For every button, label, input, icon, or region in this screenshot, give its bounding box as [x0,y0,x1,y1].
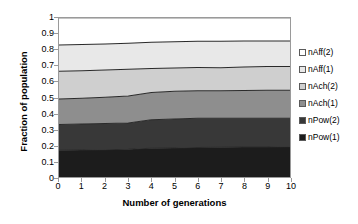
legend-swatch-icon [299,66,306,73]
x-tick-label: 9 [265,181,270,191]
x-tick-label: 1 [79,181,84,191]
y-tick-label: 0.4 [41,109,54,119]
x-tick-label: 6 [195,181,200,191]
legend-item[interactable]: nAff(2) [299,44,357,61]
legend-label: nAff(2) [308,48,333,57]
plot-area [58,17,291,178]
legend-label: nPow(1) [308,133,340,142]
x-axis-tick-labels: 012345678910 [58,181,291,195]
x-tick-label: 3 [125,181,130,191]
legend-swatch-icon [299,117,306,124]
legend-label: nPow(2) [308,116,340,125]
legend-label: nAff(1) [308,65,333,74]
x-tick-label: 8 [242,181,247,191]
x-tick-label: 10 [286,181,296,191]
y-tick-label: 0.6 [41,76,54,86]
x-tick-label: 4 [149,181,154,191]
x-tick-label: 7 [219,181,224,191]
y-tick-label: 0.5 [41,93,54,103]
x-tick-label: 2 [102,181,107,191]
legend-item[interactable]: nPow(2) [299,112,357,129]
x-axis-title: Number of generations [58,197,291,208]
legend-swatch-icon [299,49,306,56]
chart-figure: Fraction of population 00.10.20.30.40.50… [0,0,358,224]
legend-label: nAch(2) [308,82,338,91]
y-tick-label: 0.9 [41,28,54,38]
legend-item[interactable]: nPow(1) [299,129,357,146]
legend-swatch-icon [299,83,306,90]
legend-label: nAch(1) [308,99,338,108]
legend-swatch-icon [299,134,306,141]
y-tick-label: 0.3 [41,125,54,135]
x-tick-label: 0 [55,181,60,191]
legend-item[interactable]: nAch(2) [299,78,357,95]
legend-item[interactable]: nAch(1) [299,95,357,112]
y-tick-label: 0.7 [41,60,54,70]
y-tick-label: 0.8 [41,44,54,54]
area-band-npow1 [59,147,290,177]
y-tick-label: 0.2 [41,141,54,151]
chart-legend: nAff(2)nAff(1)nAch(2)nAch(1)nPow(2)nPow(… [299,44,357,146]
y-axis-tick-labels: 00.10.20.30.40.50.60.70.80.91 [26,17,54,178]
legend-swatch-icon [299,100,306,107]
stacked-area-svg [59,18,290,177]
y-tick-label: 0.1 [41,157,54,167]
x-tick-label: 5 [172,181,177,191]
legend-item[interactable]: nAff(1) [299,61,357,78]
